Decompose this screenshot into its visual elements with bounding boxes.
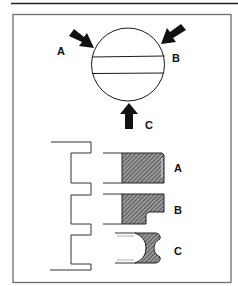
housing-profile	[50, 142, 91, 270]
profile-a	[103, 153, 164, 183]
seal-profile-diagram: A B C A B C	[0, 0, 238, 286]
part-top-view	[92, 28, 165, 101]
label-arrow-a: A	[57, 45, 65, 57]
label-profile-a: A	[174, 162, 182, 174]
profile-c	[115, 233, 160, 263]
label-arrow-b: B	[172, 52, 180, 64]
label-arrow-c: C	[145, 119, 153, 131]
arrow-c-icon	[120, 103, 138, 129]
label-profile-c: C	[174, 245, 182, 257]
arrow-a-icon	[69, 29, 94, 48]
label-profile-b: B	[174, 204, 182, 216]
arrow-b-icon	[161, 24, 186, 44]
profile-b	[103, 194, 164, 224]
